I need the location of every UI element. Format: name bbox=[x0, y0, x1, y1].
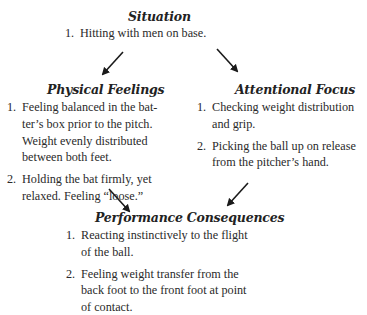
item-number: 2. bbox=[197, 138, 206, 155]
situation-item: 1. Hitting with men on base. bbox=[65, 25, 265, 42]
item-text: Holding the bat firmly, yet relaxed. Fee… bbox=[22, 171, 175, 205]
arrow-situation-to-physical bbox=[103, 52, 123, 74]
item-text: Feeling balanced in the bat-ter’s box pr… bbox=[22, 99, 175, 166]
item-number: 1. bbox=[7, 99, 16, 116]
performance-consequences-list: 1. Reacting instinctively to the flight … bbox=[66, 227, 256, 315]
attentional-focus-list: 1. Checking weight distribution and grip… bbox=[197, 99, 367, 176]
attentional-item: 2. Picking the ball up on release from t… bbox=[197, 138, 367, 172]
situation-title: Situation bbox=[128, 9, 191, 24]
item-text: Picking the ball up on release from the … bbox=[212, 138, 367, 172]
arrow-situation-to-attentional bbox=[217, 49, 237, 71]
physical-feelings-title: Physical Feelings bbox=[47, 82, 164, 97]
item-number: 2. bbox=[66, 266, 75, 283]
performance-item: 1. Reacting instinctively to the flight … bbox=[66, 227, 256, 261]
item-number: 1. bbox=[65, 25, 74, 42]
attentional-focus-title: Attentional Focus bbox=[235, 82, 355, 97]
situation-list: 1. Hitting with men on base. bbox=[65, 25, 265, 47]
item-number: 1. bbox=[66, 227, 75, 244]
attentional-item: 1. Checking weight distribution and grip… bbox=[197, 99, 367, 133]
item-text: Feeling weight transfer from the back fo… bbox=[81, 266, 256, 315]
item-text: Checking weight distribution and grip. bbox=[212, 99, 367, 133]
physical-item: 2. Holding the bat firmly, yet relaxed. … bbox=[7, 171, 175, 205]
physical-item: 1. Feeling balanced in the bat-ter’s box… bbox=[7, 99, 175, 166]
item-number: 2. bbox=[7, 171, 16, 188]
arrow-attentional-to-performance bbox=[228, 183, 248, 205]
item-text: Hitting with men on base. bbox=[80, 25, 265, 42]
item-number: 1. bbox=[197, 99, 206, 116]
item-text: Reacting instinctively to the flight of … bbox=[81, 227, 256, 261]
performance-consequences-title: Performance Consequences bbox=[95, 210, 284, 225]
performance-item: 2. Feeling weight transfer from the back… bbox=[66, 266, 256, 315]
physical-feelings-list: 1. Feeling balanced in the bat-ter’s box… bbox=[7, 99, 175, 210]
